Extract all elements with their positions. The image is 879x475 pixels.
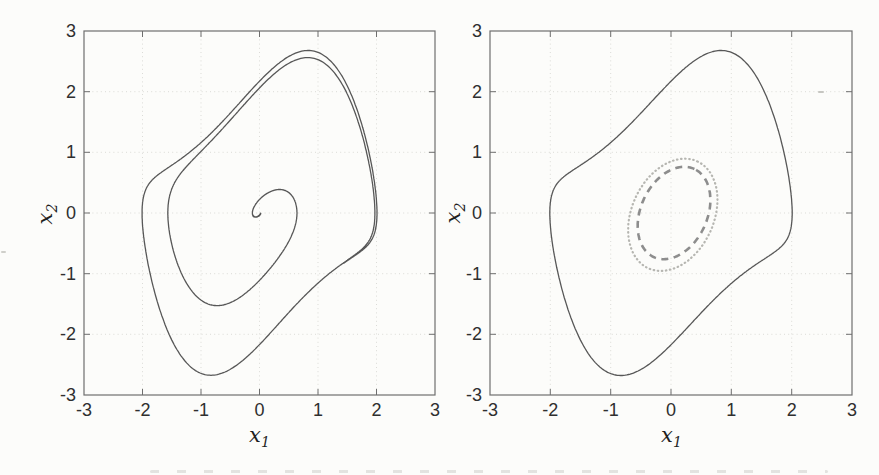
y-tick-label: -2 xyxy=(466,324,482,344)
x-tick-label: 2 xyxy=(787,400,797,420)
x-tick-label: 0 xyxy=(666,400,676,420)
x-tick-label: 1 xyxy=(726,400,736,420)
left-plot-xlabel-base: x xyxy=(249,423,261,447)
y-tick-label: 3 xyxy=(472,21,482,41)
y-tick-label: 3 xyxy=(66,21,76,41)
y-tick-label: 2 xyxy=(66,82,76,102)
scan-artifact-speck xyxy=(818,91,824,93)
y-tick-label: 2 xyxy=(472,82,482,102)
y-tick-label: -2 xyxy=(60,324,76,344)
x-tick-label: 1 xyxy=(313,400,323,420)
x-tick-label: 3 xyxy=(430,400,440,420)
right-plot-ylabel: x2 xyxy=(442,183,464,243)
x-tick-label: -3 xyxy=(76,400,92,420)
y-tick-label: -3 xyxy=(466,385,482,405)
y-tick-label: -1 xyxy=(60,264,76,284)
scan-artifact-caption-edge xyxy=(150,470,828,473)
x-tick-label: -2 xyxy=(542,400,558,420)
y-tick-label: 0 xyxy=(472,203,482,223)
x-tick-label: 2 xyxy=(371,400,381,420)
scan-artifact-speck xyxy=(1,251,6,253)
left-plot-ylabel: x2 xyxy=(34,184,56,244)
left-plot-ylabel-base: x xyxy=(33,213,57,225)
y-tick-label: 0 xyxy=(66,203,76,223)
y-tick-label: 1 xyxy=(472,142,482,162)
y-tick-label: 1 xyxy=(66,142,76,162)
y-tick-label: -3 xyxy=(60,385,76,405)
right-plot-xlabel: x1 xyxy=(641,424,702,446)
x-tick-label: -2 xyxy=(134,400,150,420)
left-plot-xlabel: x1 xyxy=(229,424,290,446)
right-plot-ylabel-base: x xyxy=(441,212,465,224)
x-tick-label: 3 xyxy=(847,400,857,420)
x-tick-label: -3 xyxy=(482,400,498,420)
phase-portrait-figure: -3-2-10123-3-2-10123-3-2-10123-3-2-10123… xyxy=(0,0,879,475)
right-plot-xlabel-sub: 1 xyxy=(673,434,682,450)
left-plot-xlabel-sub: 1 xyxy=(261,434,270,450)
x-tick-label: -1 xyxy=(603,400,619,420)
x-tick-label: 0 xyxy=(254,400,264,420)
dashed-ellipse-estimate xyxy=(638,167,711,259)
left-plot-ylabel-sub: 2 xyxy=(44,204,60,213)
right-plot-xlabel-base: x xyxy=(661,423,673,447)
dotted-ellipse-estimate xyxy=(628,159,717,271)
right-plot-ylabel-sub: 2 xyxy=(452,203,468,212)
x-tick-label: -1 xyxy=(193,400,209,420)
y-tick-label: -1 xyxy=(466,264,482,284)
phase-portrait-canvas: -3-2-10123-3-2-10123-3-2-10123-3-2-10123 xyxy=(0,0,879,475)
